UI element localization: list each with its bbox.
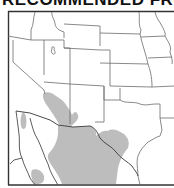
range-map	[0, 0, 174, 188]
